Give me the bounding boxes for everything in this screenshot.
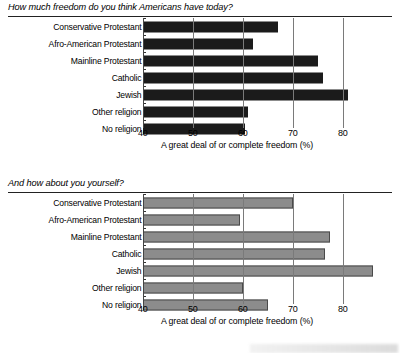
bar-row: Jewish [0, 262, 400, 279]
plot-area-bottom: Conservative ProtestantAfro-American Pro… [0, 194, 400, 314]
chart-panel-top: How much freedom do you think Americans … [0, 0, 400, 178]
x-tick-label: 40 [138, 304, 148, 314]
bar-row: Afro-American Protestant [0, 211, 400, 228]
bar-row: Afro-American Protestant [0, 35, 400, 52]
x-axis-title-bottom: A great deal of or complete freedom (%) [0, 316, 400, 326]
gridline [243, 18, 244, 128]
panel-title-bottom: And how about you yourself? [8, 178, 124, 188]
bar [143, 214, 241, 225]
category-label: Jewish [116, 90, 141, 100]
category-label: Conservative Protestant [53, 22, 141, 32]
category-label: Catholic [112, 73, 142, 83]
gridline [343, 18, 344, 128]
bar-row: Jewish [0, 86, 400, 103]
x-tick-label: 60 [238, 128, 248, 138]
gridline [193, 194, 194, 304]
category-label: Other religion [92, 107, 142, 117]
bar-row: Mainline Protestant [0, 228, 400, 245]
x-tick-label: 80 [338, 128, 348, 138]
bar-row: Other religion [0, 279, 400, 296]
x-tick-label: 70 [288, 128, 298, 138]
bar [143, 265, 373, 276]
bar-row: Catholic [0, 245, 400, 262]
panel-title-top: How much freedom do you think Americans … [8, 2, 233, 12]
category-label: Afro-American Protestant [49, 215, 142, 225]
category-label: Mainline Protestant [71, 232, 142, 242]
x-tick-label: 40 [138, 128, 148, 138]
bar-row: Mainline Protestant [0, 52, 400, 69]
x-tick-label: 80 [338, 304, 348, 314]
bar-row: Conservative Protestant [0, 194, 400, 211]
gridline [293, 194, 294, 304]
x-axis-ticks-top: 4050607080 [0, 128, 400, 140]
bar [143, 248, 326, 259]
bar [143, 38, 253, 49]
axis-baseline [143, 194, 144, 304]
bar [143, 197, 293, 208]
gridline [243, 194, 244, 304]
bar-row: Catholic [0, 69, 400, 86]
gridline [193, 18, 194, 128]
category-label: Jewish [116, 266, 141, 276]
x-axis-ticks-bottom: 4050607080 [0, 304, 400, 316]
bar [143, 89, 348, 100]
x-tick-label: 50 [188, 304, 198, 314]
x-tick-label: 70 [288, 304, 298, 314]
gridline [343, 194, 344, 304]
x-tick-label: 60 [238, 304, 248, 314]
scan-artifact [250, 344, 398, 353]
axis-baseline [143, 18, 144, 128]
bar-rows-bottom: Conservative ProtestantAfro-American Pro… [0, 194, 400, 313]
bar-row: Other religion [0, 103, 400, 120]
bar [143, 231, 331, 242]
category-label: Afro-American Protestant [49, 39, 142, 49]
bar-row: Conservative Protestant [0, 18, 400, 35]
bar [143, 72, 323, 83]
title-rule-bottom [8, 192, 392, 193]
bar [143, 21, 278, 32]
bar-rows-top: Conservative ProtestantAfro-American Pro… [0, 18, 400, 137]
plot-area-top: Conservative ProtestantAfro-American Pro… [0, 18, 400, 138]
x-axis-title-top: A great deal of or complete freedom (%) [0, 140, 400, 150]
category-label: Mainline Protestant [71, 56, 142, 66]
bar [143, 106, 248, 117]
title-rule-top [8, 16, 392, 17]
category-label: Catholic [112, 249, 142, 259]
bar [143, 55, 318, 66]
category-label: Conservative Protestant [53, 198, 141, 208]
gridline [293, 18, 294, 128]
chart-panel-bottom: And how about you yourself? Conservative… [0, 176, 400, 353]
category-label: Other religion [92, 283, 142, 293]
x-tick-label: 50 [188, 128, 198, 138]
